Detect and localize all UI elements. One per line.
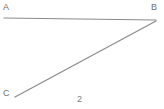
vertex-label-b: B (151, 3, 157, 12)
geometry-figure: A B C 2 (0, 0, 164, 109)
line-segment-bc (15, 21, 156, 97)
vertex-label-c: C (3, 89, 10, 98)
line-segment-ab (4, 18, 156, 20)
figure-canvas (0, 0, 164, 109)
figure-number-label: 2 (77, 95, 82, 104)
vertex-label-a: A (3, 3, 9, 12)
